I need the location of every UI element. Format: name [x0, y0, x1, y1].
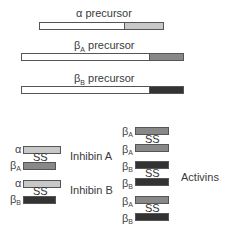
alpha-precursor-mature-domain: [125, 23, 163, 29]
alpha-chain-label: α: [15, 178, 21, 189]
betaA-precursor-bar: [21, 53, 184, 61]
precursor-text: precursor: [85, 39, 135, 51]
inhibin-b-label: Inhibin B: [70, 184, 113, 196]
alpha-precursor-bar: [39, 22, 164, 30]
alpha-chain-label: α: [15, 144, 21, 155]
betaA-chain: [135, 144, 169, 152]
betaA-precursor-prodomain: [22, 54, 150, 60]
betaA-precursor-mature-domain: [150, 54, 183, 60]
betaB-precursor-mature-domain: [150, 87, 183, 93]
betaB-chain-label: βB: [122, 213, 133, 227]
precursor-text: precursor: [82, 7, 132, 19]
alpha-precursor-label: α precursor: [76, 7, 132, 19]
betaA-chain-label: βA: [10, 160, 21, 174]
betaB-chain: [135, 213, 169, 221]
activins-label: Activins: [181, 171, 219, 183]
betaA-chain-label: βA: [122, 144, 133, 158]
precursor-text: precursor: [85, 72, 135, 84]
betaA-chain-label: βA: [122, 126, 133, 140]
betaB-chain-label: βB: [122, 178, 133, 192]
betaB-precursor-prodomain: [22, 87, 150, 93]
betaB-chain: [23, 196, 56, 204]
betaB-chain-label: βB: [122, 161, 133, 175]
betaA-chain: [23, 162, 56, 170]
alpha-precursor-prodomain: [40, 23, 125, 29]
betaB-precursor-bar: [21, 86, 184, 94]
betaB-chain: [135, 178, 169, 186]
inhibin-a-label: Inhibin A: [70, 150, 112, 162]
betaA-chain-label: βA: [122, 196, 133, 210]
betaB-chain-label: βB: [10, 194, 21, 208]
